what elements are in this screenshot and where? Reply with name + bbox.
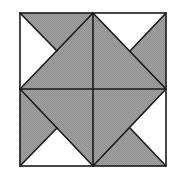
quilt-diagram: [0, 0, 176, 177]
